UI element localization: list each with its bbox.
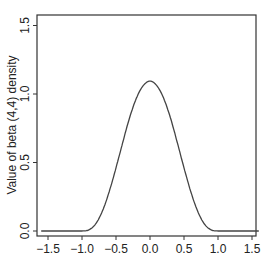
x-tick-label: 1.0 xyxy=(210,242,227,256)
y-tick-label: 0.5 xyxy=(18,154,32,171)
y-tick-label: 1.5 xyxy=(18,17,32,34)
x-tick-label: 1.5 xyxy=(244,242,261,256)
plot-area: −1.5−1.0−0.50.00.51.01.5 0.00.51.01.5 Va… xyxy=(0,0,271,264)
x-tick-label: −1.0 xyxy=(70,242,94,256)
chart: −1.5−1.0−0.50.00.51.01.5 0.00.51.01.5 Va… xyxy=(0,0,271,264)
density-curve xyxy=(41,81,259,231)
y-tick-label: 1.0 xyxy=(18,85,32,102)
plot-frame xyxy=(37,15,256,236)
x-tick-label: 0.5 xyxy=(176,242,193,256)
x-tick-label: 0.0 xyxy=(142,242,159,256)
x-tick-label: −0.5 xyxy=(104,242,128,256)
x-axis: −1.5−1.0−0.50.00.51.01.5 xyxy=(36,236,261,256)
y-tick-label: 0.0 xyxy=(18,222,32,239)
x-tick-label: −1.5 xyxy=(36,242,60,256)
y-axis: 0.00.51.01.5 xyxy=(18,17,37,240)
y-axis-label: Value of beta (4,4) density xyxy=(5,55,19,194)
